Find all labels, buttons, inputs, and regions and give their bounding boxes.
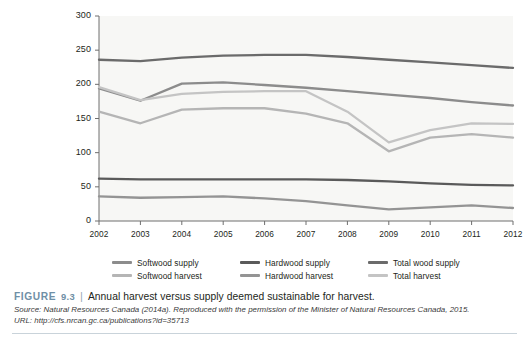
caption-text: Annual harvest versus supply deemed sust… <box>88 291 375 302</box>
legend-item-softwood-supply: Softwood supply <box>112 258 240 268</box>
caption-block: FIGURE 9.3 | Annual harvest versus suppl… <box>14 290 519 326</box>
legend-label: Hardwood harvest <box>265 271 333 281</box>
bottom-divider <box>12 333 517 334</box>
chart-legend: Softwood supplyHardwood supplyTotal wood… <box>112 256 512 282</box>
source-note: Source: Natural Resources Canada (2014a)… <box>14 305 484 326</box>
caption-separator: | <box>80 290 83 302</box>
legend-swatch <box>240 261 260 264</box>
legend-label: Total wood supply <box>393 258 460 268</box>
axis-lines <box>95 16 513 225</box>
series-line-hardwood-harvest <box>99 196 513 209</box>
legend-item-total-harvest: Total harvest <box>368 271 508 281</box>
figure-number: 9.3 <box>61 291 75 302</box>
legend-item-hardwood-supply: Hardwood supply <box>240 258 368 268</box>
legend-swatch <box>112 261 132 264</box>
series-line-total-wood-supply <box>99 55 513 68</box>
legend-swatch <box>112 274 132 277</box>
legend-label: Softwood supply <box>137 258 199 268</box>
legend-label: Softwood harvest <box>137 271 202 281</box>
series-line-softwood-harvest <box>99 108 513 151</box>
chart-svg <box>0 0 529 250</box>
series-line-softwood-supply <box>99 82 513 105</box>
legend-item-softwood-harvest: Softwood harvest <box>112 271 240 281</box>
legend-item-hardwood-harvest: Hardwood harvest <box>240 271 368 281</box>
legend-label: Hardwood supply <box>265 258 330 268</box>
figure-container: Volume of wood harvested (million cubic … <box>0 0 529 338</box>
legend-swatch <box>368 274 388 277</box>
legend-swatch <box>368 261 388 264</box>
series-line-hardwood-supply <box>99 179 513 186</box>
series-lines <box>99 55 513 209</box>
figure-label-word: FIGURE <box>14 291 56 302</box>
chart-area: Volume of wood harvested (million cubic … <box>0 0 529 250</box>
legend-label: Total harvest <box>393 271 441 281</box>
legend-item-total-wood-supply: Total wood supply <box>368 258 508 268</box>
legend-swatch <box>240 274 260 277</box>
figure-caption: FIGURE 9.3 | Annual harvest versus suppl… <box>14 290 519 302</box>
